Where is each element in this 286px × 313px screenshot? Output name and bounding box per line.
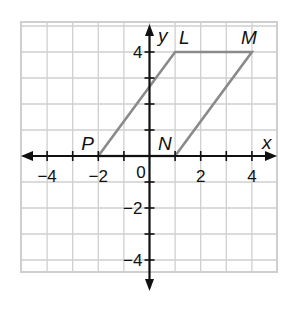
y-axis-label: y (156, 25, 169, 46)
x-tick-label: 4 (247, 167, 256, 186)
axes (21, 24, 277, 291)
x-axis-left-arrow-icon (21, 151, 33, 161)
x-axis-label: x (261, 132, 273, 153)
y-axis-down-arrow-icon (145, 279, 154, 291)
coordinate-plane: −4−2244−2−40yxPLMN (0, 0, 286, 313)
x-tick-label: −2 (89, 167, 108, 186)
point-label-p: P (81, 133, 94, 154)
y-tick-label: −4 (123, 251, 142, 270)
y-tick-label: −2 (123, 199, 142, 218)
x-tick-label: 2 (196, 167, 205, 186)
point-label-l: L (179, 27, 190, 48)
point-label-n: N (158, 133, 172, 154)
origin-label: 0 (136, 163, 145, 182)
x-tick-label: −4 (37, 167, 56, 186)
point-label-m: M (241, 27, 257, 48)
y-tick-label: 4 (133, 43, 142, 62)
